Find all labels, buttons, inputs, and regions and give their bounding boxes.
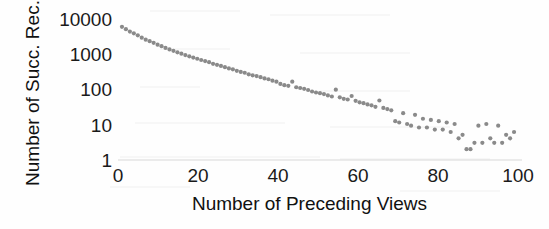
data-point [460,133,464,137]
data-point [255,74,259,78]
data-point [350,94,354,98]
data-point [167,47,171,51]
x-tick-label: 20 [187,166,208,185]
data-point [381,106,385,110]
data-point [433,127,437,131]
data-point [484,122,488,126]
data-point [472,141,476,145]
data-point [373,105,377,109]
data-point [207,60,211,64]
plot-area [118,16,518,162]
data-point [282,83,286,87]
data-point [361,101,365,105]
data-point [195,57,199,61]
data-point [247,72,251,76]
data-point [262,76,266,80]
data-point [227,66,231,70]
data-point [251,73,255,77]
x-axis-title: Number of Preceding Views [0,193,549,215]
data-point [429,118,433,122]
data-point [223,65,227,69]
data-point [156,43,160,47]
data-point [334,88,338,92]
data-point [365,102,369,106]
x-tick-label: 0 [113,166,124,185]
x-axis-title-text: Number of Preceding Views [192,193,427,214]
data-point [179,52,183,56]
data-point [500,141,504,145]
y-tick-label: 100 [80,80,112,99]
data-point [385,107,389,111]
data-point [445,120,449,124]
data-point [266,77,270,81]
data-point [508,136,512,140]
data-point [128,29,132,33]
data-point [243,71,247,75]
data-point [219,64,223,68]
data-point [449,130,453,134]
data-point [504,133,508,137]
y-axis-title: Number of Succ. Rec. [22,0,44,188]
data-point [203,59,207,63]
data-point [421,117,425,121]
data-point [401,111,405,115]
data-point [389,108,393,112]
data-point [163,46,167,50]
y-tick-label: 1000 [70,45,112,64]
x-tick-label: 100 [502,166,534,185]
figure-scatter-plot: 10000 1000 100 10 1 0 20 40 60 80 100 Nu… [0,0,549,229]
data-point [132,31,136,35]
data-point [183,53,187,57]
data-point [512,130,516,134]
data-point [290,80,294,84]
data-point [330,94,334,98]
data-point [397,120,401,124]
data-point [211,62,215,66]
data-point [377,98,381,102]
data-point [187,54,191,58]
data-point [302,87,306,91]
data-point [425,125,429,129]
data-point [417,125,421,129]
data-point [488,136,492,140]
data-point-group [120,25,516,152]
data-point [199,58,203,62]
data-point [496,124,500,128]
data-point [405,122,409,126]
data-point [464,147,468,151]
data-point [278,82,282,86]
data-point [480,141,484,145]
data-point [286,84,290,88]
y-tick-label: 10 [91,116,112,135]
data-point [294,85,298,89]
data-point [258,75,262,79]
data-point [235,69,239,73]
data-point [152,41,156,45]
data-point [310,89,314,93]
data-point [298,86,302,90]
data-point [148,39,152,43]
data-point [456,136,460,140]
data-point [437,119,441,123]
data-point [159,44,163,48]
data-point [453,122,457,126]
data-point [409,124,413,128]
data-point [215,63,219,67]
data-point [239,70,243,74]
data-point [338,95,342,99]
data-point [140,36,144,40]
x-tick-label: 80 [427,166,448,185]
data-point [191,55,195,59]
data-point [144,38,148,42]
data-point [357,100,361,104]
data-point [441,127,445,131]
data-point [393,119,397,123]
data-point [476,124,480,128]
data-point [270,79,274,83]
data-point [413,113,417,117]
y-tick-label: 1 [101,151,112,170]
data-point [492,141,496,145]
data-point [369,103,373,107]
x-tick-label: 60 [347,166,368,185]
data-point [306,88,310,92]
